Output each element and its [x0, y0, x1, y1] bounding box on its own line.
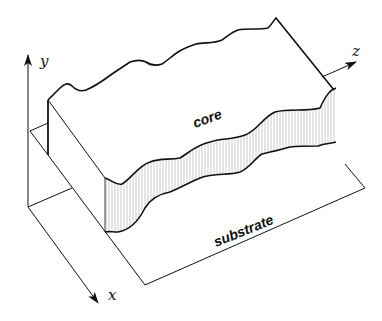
z-axis-label: z [351, 42, 360, 60]
core-front-face [105, 88, 336, 232]
core-top-surface [30, 18, 334, 178]
substrate-label: substrate [211, 211, 276, 250]
core-label: core [191, 106, 224, 131]
y-axis-label: y [39, 52, 49, 70]
z-axis [322, 62, 356, 77]
x-axis-label: x [108, 286, 117, 304]
x-axis [28, 207, 98, 303]
waveguide-diagram: y x z core substrate [0, 0, 382, 321]
